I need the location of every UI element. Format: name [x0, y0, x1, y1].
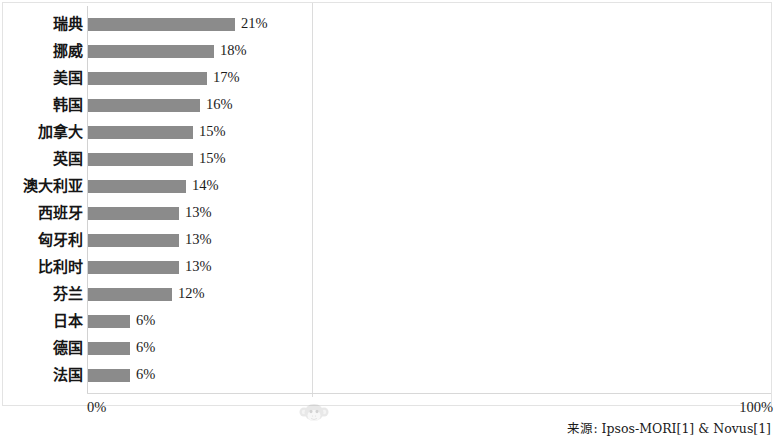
- plot-area: 21%18%17%16%15%15%14%13%13%13%12%6%6%6%: [87, 6, 771, 394]
- category-label: 英国: [5, 146, 83, 173]
- bar: [88, 126, 193, 139]
- bar: [88, 234, 179, 247]
- bar: [88, 261, 179, 274]
- source-note: 来源: Ipsos-MORI[1] & Novus[1]: [567, 418, 771, 437]
- bar-value-label: 16%: [206, 91, 233, 118]
- bar-value-label: 18%: [220, 37, 247, 64]
- y-axis-line: [87, 6, 88, 394]
- bar-value-label: 13%: [185, 226, 212, 253]
- bar-value-label: 15%: [199, 145, 226, 172]
- category-label: 澳大利亚: [5, 173, 83, 200]
- bar: [88, 180, 186, 193]
- monkey-face-icon: [299, 401, 329, 425]
- x-axis-tick-min: 0%: [87, 399, 106, 416]
- category-label: 挪威: [5, 38, 83, 65]
- x-axis-line: [87, 393, 771, 394]
- category-label: 西班牙: [5, 200, 83, 227]
- category-axis-labels: 瑞典挪威美国韩国加拿大英国澳大利亚西班牙匈牙利比利时芬兰日本德国法国: [3, 6, 83, 394]
- category-label: 瑞典: [5, 11, 83, 38]
- category-label: 美国: [5, 65, 83, 92]
- bar: [88, 342, 130, 355]
- bar-value-label: 6%: [136, 334, 155, 361]
- category-label: 德国: [5, 335, 83, 362]
- bar: [88, 153, 193, 166]
- bar-value-label: 12%: [178, 280, 205, 307]
- category-label: 芬兰: [5, 281, 83, 308]
- bar-value-label: 13%: [185, 253, 212, 280]
- bar-value-label: 14%: [192, 172, 219, 199]
- category-label: 比利时: [5, 254, 83, 281]
- x-axis-tick-max: 100%: [663, 399, 773, 416]
- bar-value-label: 6%: [136, 361, 155, 388]
- bar: [88, 369, 130, 382]
- gridline-50-percent: [312, 3, 313, 397]
- chart-frame: 瑞典挪威美国韩国加拿大英国澳大利亚西班牙匈牙利比利时芬兰日本德国法国 21%18…: [2, 2, 772, 406]
- bar: [88, 45, 214, 58]
- bar-value-label: 6%: [136, 307, 155, 334]
- bar: [88, 18, 235, 31]
- bar: [88, 72, 207, 85]
- bar-value-label: 17%: [213, 64, 240, 91]
- bar: [88, 99, 200, 112]
- bar-value-label: 21%: [241, 10, 268, 37]
- category-label: 日本: [5, 308, 83, 335]
- bar-value-label: 15%: [199, 118, 226, 145]
- category-label: 法国: [5, 362, 83, 389]
- bar-value-label: 13%: [185, 199, 212, 226]
- category-label: 匈牙利: [5, 227, 83, 254]
- category-label: 加拿大: [5, 119, 83, 146]
- bar: [88, 288, 172, 301]
- bar: [88, 207, 179, 220]
- category-label: 韩国: [5, 92, 83, 119]
- bar: [88, 315, 130, 328]
